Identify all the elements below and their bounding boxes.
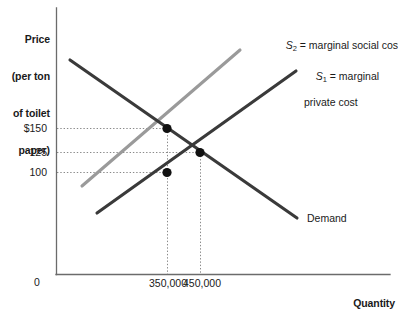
demand-curve bbox=[70, 60, 297, 218]
y-tick-label-125: 125 bbox=[0, 146, 47, 158]
y-tick-label-100: 100 bbox=[0, 166, 47, 178]
origin-label: 0 bbox=[34, 276, 40, 288]
y-tick-label-150: $150 bbox=[0, 122, 47, 134]
s1-subscript: 1 bbox=[323, 75, 327, 84]
s1-symbol: S bbox=[316, 70, 323, 82]
y-axis-title-line-3: of toilet bbox=[0, 107, 50, 119]
guide-lines bbox=[57, 129, 201, 275]
data-point-private-cost bbox=[162, 168, 171, 177]
y-axis-title-line-1: Price bbox=[0, 33, 50, 45]
s1-label-text: = marginal bbox=[327, 70, 379, 82]
s2-label-text: = marginal social cost bbox=[297, 39, 398, 51]
data-point-market-equilibrium bbox=[195, 148, 204, 157]
x-tick-label-450000: 450,000 bbox=[171, 277, 233, 289]
s2-subscript: 2 bbox=[293, 44, 297, 53]
supply-demand-chart: Price (per ton of toilet paper) $150 125… bbox=[0, 0, 398, 312]
s1-label-text-line2: private cost bbox=[304, 96, 379, 108]
s1-curve-label: S1 = marginal private cost bbox=[304, 58, 379, 133]
s2-symbol: S bbox=[286, 39, 293, 51]
demand-curve-label: Demand bbox=[307, 212, 347, 224]
supply-private-curve bbox=[97, 71, 296, 213]
data-point-social-optimum bbox=[162, 124, 171, 133]
x-axis-title: Quantity (tons of toilet paper produced … bbox=[238, 272, 395, 312]
x-axis-title-line-1: Quantity bbox=[238, 297, 395, 309]
y-axis-title-line-2: (per ton bbox=[0, 70, 50, 82]
